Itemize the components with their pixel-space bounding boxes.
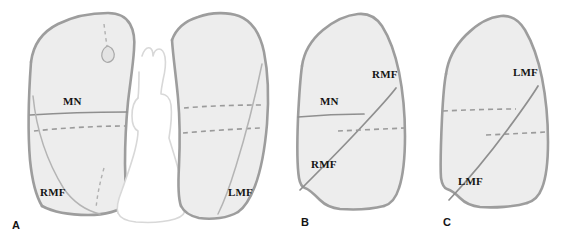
panel-a-frontal-chest: MN RMF LMF [29, 13, 268, 222]
label-rmf-frontal: RMF [40, 186, 66, 198]
label-lmf-frontal: LMF [228, 186, 253, 198]
panel-c-left-lateral: LMF LMF [441, 16, 548, 207]
left-lung-frontal [172, 13, 268, 219]
label-mn-lateral: MN [320, 95, 339, 107]
lung-fissure-figure: MN RMF LMF RMF MN RMF LMF LMF [0, 0, 578, 242]
panel-letter-b: B [301, 216, 309, 228]
label-lmf-lateral-lower: LMF [458, 175, 483, 187]
right-lung-lateral-fill [297, 14, 405, 210]
panel-b-right-lateral: RMF MN RMF [297, 14, 405, 210]
label-rmf-lateral-lower: RMF [311, 158, 337, 170]
panel-letter-a: A [12, 219, 20, 231]
panel-letter-c: C [443, 216, 451, 228]
figure-canvas: MN RMF LMF RMF MN RMF LMF LMF [0, 0, 578, 242]
label-lmf-lateral-upper: LMF [513, 66, 538, 78]
label-mn-right-frontal: MN [63, 95, 82, 107]
label-rmf-lateral-upper: RMF [372, 68, 398, 80]
